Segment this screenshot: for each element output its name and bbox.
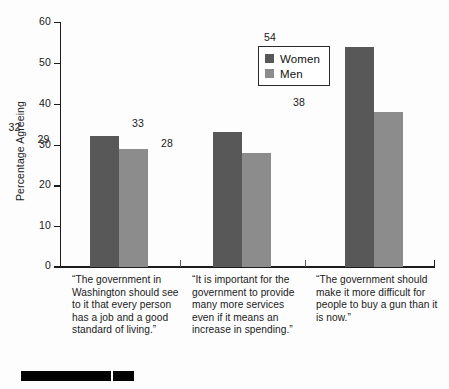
y-axis-title: Percentage Agreeing: [14, 71, 26, 231]
category-caption-1: “It is important for the government to p…: [192, 274, 296, 337]
y-tick-20: [54, 185, 60, 186]
bar-value-women-0: 32: [0, 121, 35, 133]
bar-men-0[interactable]: [119, 149, 148, 268]
y-tick-label-10: 10: [5, 219, 51, 231]
bar-women-0[interactable]: [90, 136, 119, 267]
bar-women-1[interactable]: [213, 132, 242, 267]
y-tick-label-0: 0: [5, 259, 51, 271]
category-caption-2: “The government should make it more diff…: [316, 274, 438, 324]
y-tick-label-40: 40: [5, 97, 51, 109]
bottom-rule-segment-right: [113, 371, 134, 381]
legend-label-women: Women: [280, 53, 320, 65]
x-axis-end-tick: [434, 260, 435, 267]
y-tick-40: [54, 104, 60, 105]
bar-group-0: [90, 22, 150, 267]
bar-group-2: [345, 22, 405, 267]
legend-item-women[interactable]: Women: [265, 51, 320, 66]
legend-item-men[interactable]: Men: [265, 66, 320, 81]
legend-swatch-men-icon: [265, 69, 274, 78]
bar-value-men-1: 28: [147, 137, 187, 149]
y-tick-50: [54, 63, 60, 64]
bar-value-men-2: 38: [279, 96, 319, 108]
chart-legend: Women Men: [258, 46, 330, 86]
y-tick-10: [54, 226, 60, 227]
y-tick-label-60: 60: [5, 15, 51, 27]
legend-label-men: Men: [280, 68, 303, 80]
y-tick-label-20: 20: [5, 178, 51, 190]
y-tick-60: [54, 22, 60, 23]
bar-chart-plot: 60 50 40 30 20 10 0 Percentage Agreeing: [0, 0, 449, 389]
bar-men-1[interactable]: [242, 153, 271, 267]
bar-women-2[interactable]: [345, 47, 374, 268]
group-separator-1: [180, 260, 181, 267]
bar-value-men-0: 29: [24, 133, 64, 145]
chart-page: 60 50 40 30 20 10 0 Percentage Agreeing: [0, 0, 449, 389]
bar-men-2[interactable]: [374, 112, 403, 267]
group-separator-2: [305, 260, 306, 267]
y-tick-label-50: 50: [5, 56, 51, 68]
legend-swatch-women-icon: [265, 54, 274, 63]
bar-value-women-2: 54: [250, 31, 290, 43]
y-tick-0: [54, 266, 60, 267]
bar-value-women-1: 33: [118, 117, 158, 129]
bottom-rule-segment-left: [21, 371, 111, 381]
category-caption-0: “The government in Washington should see…: [72, 274, 180, 337]
